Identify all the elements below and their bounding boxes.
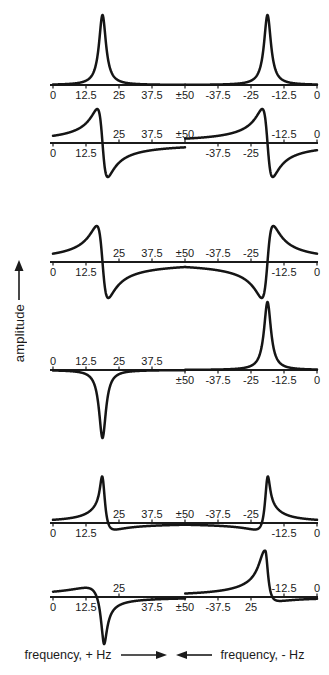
panel-6: 012.52537.5±50-37.525-12.50 [50, 551, 320, 644]
tick-label: -37.5 [205, 508, 230, 520]
panel-6-curve [185, 551, 317, 601]
panel-1: 012.52537.5±50-37.5-25-12.50 [50, 15, 320, 101]
tick-label: 0 [314, 266, 320, 278]
spectra-svg: 012.52537.5±50-37.5-25-12.50012.52537.5±… [0, 0, 329, 675]
amplitude-axis-label: amplitude [12, 304, 27, 362]
tick-label: -12.5 [271, 89, 296, 101]
panel-1-curve [53, 15, 185, 85]
tick-label: 12.5 [75, 601, 96, 613]
tick-label: 25 [113, 89, 125, 101]
tick-label: 12.5 [75, 266, 96, 278]
tick-label: 25 [113, 247, 125, 259]
tick-label: 25 [245, 601, 257, 613]
tick-label: ±50 [176, 247, 194, 259]
tick-label: ±50 [176, 89, 194, 101]
tick-label: 25 [113, 582, 125, 594]
tick-label: -12.5 [271, 128, 296, 140]
tick-label: -37.5 [205, 247, 230, 259]
tick-label: 12.5 [75, 355, 96, 367]
tick-label: 0 [314, 128, 320, 140]
panel-5: 012.52537.5±50-37.5-25-12.50 [50, 476, 320, 539]
tick-label: 12.5 [75, 147, 96, 159]
tick-label: -37.5 [205, 89, 230, 101]
tick-label: 37.5 [141, 601, 162, 613]
panel-1-curve [185, 15, 317, 85]
tick-label: 37.5 [141, 128, 162, 140]
tick-label: -25 [243, 89, 259, 101]
tick-label: 37.5 [141, 508, 162, 520]
tick-label: -37.5 [205, 601, 230, 613]
tick-label: -12.5 [271, 374, 296, 386]
tick-label: 0 [314, 89, 320, 101]
tick-label: -37.5 [205, 374, 230, 386]
tick-label: -12.5 [271, 527, 296, 539]
tick-label: 0 [50, 355, 56, 367]
right-arrow-icon [121, 649, 167, 661]
tick-label: 0 [314, 582, 320, 594]
tick-label: 25 [113, 355, 125, 367]
tick-label: 0 [50, 89, 56, 101]
tick-label: -25 [243, 374, 259, 386]
tick-label: 0 [314, 527, 320, 539]
panel-2: 012.52537.5±50-37.5-25-12.50 [50, 109, 320, 177]
tick-label: 12.5 [75, 89, 96, 101]
tick-label: 0 [314, 374, 320, 386]
tick-label: 0 [50, 601, 56, 613]
left-arrow-icon [176, 649, 212, 661]
tick-label: 37.5 [141, 89, 162, 101]
amplitude-axis-label-group: amplitude [5, 260, 33, 380]
tick-label: ±50 [176, 508, 194, 520]
tick-label: -25 [243, 147, 259, 159]
panel-4-curve [53, 370, 185, 438]
frequency-positive-label: frequency, + Hz [25, 648, 112, 662]
panel-4: 012.52537.5±50-37.5-25-12.50 [50, 302, 320, 438]
tick-label: 25 [113, 508, 125, 520]
panel-4-curve [185, 302, 317, 370]
tick-label: -12.5 [271, 582, 296, 594]
frequency-axis-labels: frequency, + Hz frequency, - Hz [0, 645, 329, 665]
tick-label: -25 [243, 247, 259, 259]
amplitude-axis-up-arrow-icon [12, 260, 26, 302]
panel-3: 012.52537.5±50-37.5-25-12.50 [50, 226, 320, 298]
tick-label: ±50 [176, 374, 194, 386]
tick-label: -37.5 [205, 147, 230, 159]
tick-label: 12.5 [75, 527, 96, 539]
tick-label: 0 [50, 147, 56, 159]
tick-label: 0 [50, 266, 56, 278]
tick-label: 37.5 [141, 247, 162, 259]
tick-label: -12.5 [271, 266, 296, 278]
tick-label: ±50 [176, 601, 194, 613]
tick-label: 37.5 [141, 355, 162, 367]
tick-label: 0 [50, 527, 56, 539]
tick-label: 25 [113, 128, 125, 140]
frequency-negative-label: frequency, - Hz [221, 648, 305, 662]
tick-label: -25 [243, 508, 259, 520]
